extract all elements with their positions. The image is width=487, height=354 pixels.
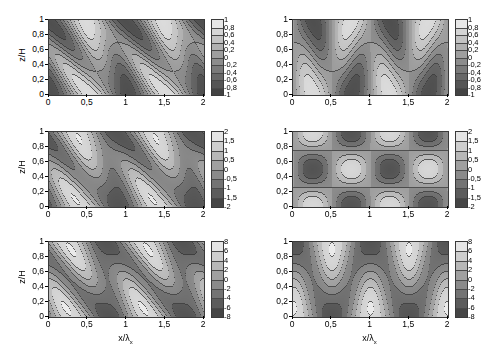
panel-bot-right-colorbar-tick-4: 0 (468, 274, 472, 283)
panel-bot-right-ytickmark-4 (289, 256, 292, 257)
panel-bot-right-xtickmark-2 (369, 316, 370, 319)
panel-bot-right-xlabel: x/λx (330, 333, 410, 345)
panel-bot-right-colorbar-segment-4 (456, 280, 467, 289)
panel-bot-right-ytickmark-2 (289, 286, 292, 287)
panel-bot-right-xtick-4: 2 (445, 319, 450, 329)
panel-bot-right-colorbar-tick-2: 4 (468, 255, 472, 264)
panel-bot-right-colorbar-divider-7 (456, 308, 467, 309)
panel-bot-right-colorbar-segment-2 (456, 261, 467, 270)
panel-bot-right-xtick-1: 0,5 (325, 319, 337, 329)
panel-bot-right-xlabel-subscript: x (374, 339, 377, 345)
panel-bot-right-colorbar-divider-3 (456, 270, 467, 271)
panel-bot-right-ytickmark-5 (289, 241, 292, 242)
panel-bot-right-ytick-3: 0,6 (262, 266, 288, 276)
panel-bot-right-colorbar-tick-5: -2 (468, 283, 475, 292)
panel-bot-right-colorbar-tick-0: 8 (468, 237, 472, 246)
panel-bot-right-ytickmark-3 (289, 271, 292, 272)
panel-bot-right-colorbar-segment-6 (456, 298, 467, 307)
panel-bot-right: 00,20,40,60,8100,511,52x/λx86420-2-4-6-8 (0, 0, 487, 354)
panel-bot-right-colorbar-segment-5 (456, 289, 467, 298)
panel-bot-right-ytick-5: 1 (262, 236, 288, 246)
panel-bot-right-colorbar-tick-7: -6 (468, 302, 475, 311)
panel-bot-right-plot-area (292, 241, 449, 318)
figure-contour-grid: 00,20,40,60,8100,511,52z/H10,80,60,40,20… (0, 0, 487, 354)
panel-bot-right-colorbar-divider-2 (456, 261, 467, 262)
panel-bot-right-ytick-0: 0 (262, 311, 288, 321)
panel-bot-right-colorbar (455, 241, 468, 318)
panel-bot-right-xtick-3: 1,5 (402, 319, 414, 329)
panel-bot-right-colorbar-tick-6: -4 (468, 293, 475, 302)
panel-bot-right-xtick-0: 0 (290, 319, 295, 329)
panel-bot-right-colorbar-tick-1: 6 (468, 246, 472, 255)
panel-bot-right-ytickmark-1 (289, 301, 292, 302)
panel-bot-right-colorbar-divider-6 (456, 298, 467, 299)
panel-bot-right-xtickmark-0 (292, 316, 293, 319)
panel-bot-right-xtickmark-3 (408, 316, 409, 319)
panel-bot-right-colorbar-segment-1 (456, 251, 467, 260)
panel-bot-right-xtick-2: 1 (367, 319, 372, 329)
panel-bot-right-colorbar-segment-0 (456, 242, 467, 251)
panel-bot-right-field (293, 242, 448, 317)
panel-bot-right-ytick-4: 0,8 (262, 251, 288, 261)
panel-bot-right-colorbar-divider-5 (456, 289, 467, 290)
panel-bot-right-xtickmark-4 (447, 316, 448, 319)
panel-bot-right-colorbar-tick-3: 2 (468, 265, 472, 274)
panel-bot-right-colorbar-segment-3 (456, 270, 467, 279)
panel-bot-right-colorbar-divider-4 (456, 280, 467, 281)
panel-bot-right-ytick-2: 0,4 (262, 281, 288, 291)
panel-bot-right-xlabel-text: x/λ (362, 333, 374, 343)
panel-bot-right-colorbar-tick-8: -8 (468, 312, 475, 321)
panel-bot-right-xtickmark-1 (330, 316, 331, 319)
panel-bot-right-ytick-1: 0,2 (262, 296, 288, 306)
panel-bot-right-colorbar-divider-1 (456, 251, 467, 252)
panel-bot-right-colorbar-segment-7 (456, 308, 467, 317)
